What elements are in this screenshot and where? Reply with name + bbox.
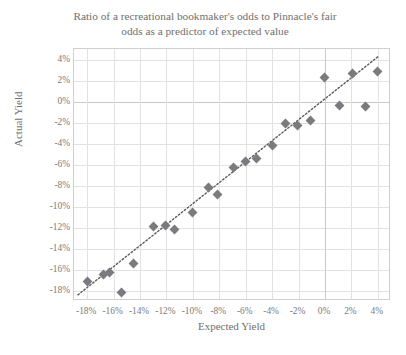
data-point xyxy=(169,225,179,235)
y-tick-label: -18% xyxy=(30,285,70,295)
chart-title: Ratio of a recreational bookmaker's odds… xyxy=(38,9,372,39)
data-point xyxy=(82,276,92,286)
x-tick-label: -10% xyxy=(182,306,202,316)
x-tick-label: -12% xyxy=(155,306,175,316)
x-axis-ticks: -18%-16%-14%-12%-10%-8%-6%-4%-2%0%2%4% xyxy=(73,302,390,316)
data-point xyxy=(305,115,315,125)
y-tick-label: -4% xyxy=(30,138,70,148)
y-tick-label: -8% xyxy=(30,180,70,190)
x-tick-label: -18% xyxy=(76,306,96,316)
x-axis-title: Expected Yield xyxy=(73,320,390,332)
x-tick-label: 2% xyxy=(344,306,357,316)
y-tick-label: 0% xyxy=(30,96,70,106)
y-tick-label: -6% xyxy=(30,159,70,169)
data-point xyxy=(335,101,345,111)
x-tick-label: -2% xyxy=(290,306,306,316)
data-point xyxy=(148,221,158,231)
x-tick-label: -16% xyxy=(102,306,122,316)
chart-page: Ratio of a recreational bookmaker's odds… xyxy=(0,0,406,355)
y-tick-label: -14% xyxy=(30,243,70,253)
data-point xyxy=(348,68,358,78)
y-tick-label: -2% xyxy=(30,117,70,127)
data-point xyxy=(241,156,251,166)
data-point xyxy=(361,102,371,112)
data-point xyxy=(117,288,127,298)
data-point xyxy=(128,258,138,268)
data-point xyxy=(188,208,198,218)
data-point xyxy=(320,72,330,82)
data-point xyxy=(229,163,239,173)
data-series xyxy=(74,49,389,299)
x-tick-label: -8% xyxy=(210,306,226,316)
y-tick-label: 4% xyxy=(30,54,70,64)
x-tick-label: -4% xyxy=(263,306,279,316)
data-point xyxy=(280,119,290,129)
data-point xyxy=(204,183,214,193)
y-tick-label: -12% xyxy=(30,222,70,232)
data-point xyxy=(373,66,383,76)
y-axis-ticks: 4%2%0%-2%-4%-6%-8%-10%-12%-14%-16%-18% xyxy=(26,48,70,300)
x-tick-label: 0% xyxy=(318,306,331,316)
plot-area xyxy=(73,48,390,300)
y-tick-label: 2% xyxy=(30,75,70,85)
data-point xyxy=(251,153,261,163)
y-tick-label: -10% xyxy=(30,201,70,211)
data-point xyxy=(213,190,223,200)
x-tick-label: -6% xyxy=(237,306,253,316)
y-tick-label: -16% xyxy=(30,264,70,274)
x-tick-label: 4% xyxy=(371,306,384,316)
data-point xyxy=(267,141,277,151)
x-tick-label: -14% xyxy=(129,306,149,316)
y-axis-title: Actual Yield xyxy=(12,121,24,147)
data-point xyxy=(292,121,302,131)
